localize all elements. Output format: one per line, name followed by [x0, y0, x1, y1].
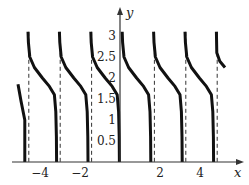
y-axis-arrow-icon	[117, 7, 123, 15]
y-tick-label: 1	[108, 113, 116, 127]
y-tick-label: 0.5	[97, 134, 116, 148]
curve-segments	[18, 32, 225, 162]
curve-segment	[59, 32, 88, 162]
y-tick-label: 1.5	[97, 92, 116, 106]
curve-segment	[28, 32, 57, 162]
y-tick-label: 2.5	[97, 50, 116, 64]
curve-segment	[122, 32, 151, 162]
y-axis-label: y	[125, 5, 134, 20]
x-tick-label: −4	[31, 166, 49, 180]
curve-segment	[154, 32, 183, 162]
x-axis-label: x	[234, 165, 242, 180]
x-tick-label: 2	[156, 166, 164, 180]
x-tick-labels: −4−224	[31, 166, 204, 180]
x-tick-label: −2	[71, 166, 89, 180]
curve-segment	[18, 84, 25, 162]
curve-segment	[185, 32, 214, 162]
y-tick-label: 2	[108, 71, 116, 85]
x-tick-label: 4	[196, 166, 204, 180]
x-axis	[12, 159, 244, 165]
y-tick-label: 3	[108, 29, 116, 43]
chart: −4−224 0.511.522.53 x y	[0, 0, 249, 185]
